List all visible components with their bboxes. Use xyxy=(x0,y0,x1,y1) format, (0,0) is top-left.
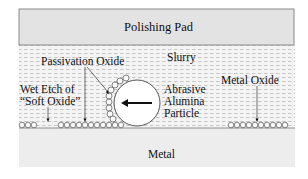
surface-oxide-middle xyxy=(58,122,124,128)
surface-oxide-left xyxy=(19,122,37,128)
cmp-diagram: Polishing Pad Slurry Passivation Oxide W… xyxy=(0,0,308,179)
particle-label-line3: Particle xyxy=(164,107,199,119)
particle-label-line1: Abrasive xyxy=(164,83,206,95)
wet-etch-label-line1: Wet Etch of xyxy=(20,83,75,95)
particle-label-line2: Alumina xyxy=(164,95,204,107)
passivation-oxide-label: Passivation Oxide xyxy=(41,55,124,67)
slurry-label: Slurry xyxy=(167,51,196,63)
metal-oxide-label: Metal Oxide xyxy=(221,74,279,86)
metal-label: Metal xyxy=(148,148,175,160)
wet-etch-label-line2: “Soft Oxide” xyxy=(20,95,80,107)
polishing-pad-label: Polishing Pad xyxy=(124,21,193,33)
